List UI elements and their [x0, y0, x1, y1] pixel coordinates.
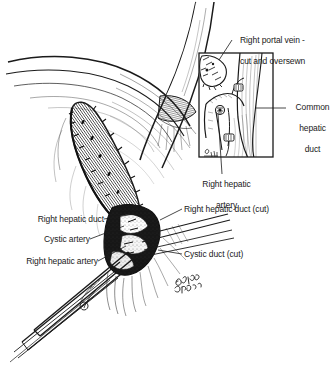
label-right-hepatic-duct-cut: Right hepatic duct (cut)	[184, 204, 269, 215]
label-right-portal-vein-line2: cut and oversewn	[240, 56, 305, 66]
label-inset-right-hepatic-artery-line1: Right hepatic	[202, 179, 250, 189]
label-cystic-duct-cut: Cystic duct (cut)	[184, 249, 243, 260]
label-common-hepatic-duct-line2: hepatic	[299, 123, 326, 133]
illustration-page: Right portal vein - cut and oversewn Com…	[0, 0, 336, 382]
label-right-portal-vein: Right portal vein - cut and oversewn	[231, 24, 305, 77]
label-common-hepatic-duct-line1: Common	[296, 102, 330, 112]
label-right-portal-vein-line1: Right portal vein -	[240, 35, 305, 45]
label-cystic-artery: Cystic artery	[26, 234, 90, 245]
label-common-hepatic-duct: Common hepatic duct	[283, 91, 333, 165]
label-common-hepatic-duct-line3: duct	[305, 144, 321, 154]
inset-clip-upper	[234, 84, 243, 91]
label-right-hepatic-artery: Right hepatic artery	[6, 256, 98, 267]
inset-right-hepatic-artery-stump	[216, 106, 225, 115]
label-right-hepatic-duct: Right hepatic duct	[10, 214, 104, 225]
